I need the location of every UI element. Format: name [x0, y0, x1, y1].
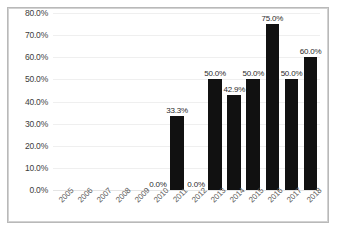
x-axis-slot: 2012 [187, 190, 206, 224]
bar[interactable]: 75.0% [266, 24, 280, 190]
bar-slot[interactable] [110, 13, 129, 190]
x-axis-slot: 2010 [148, 190, 167, 224]
x-axis-slot: 2013 [206, 190, 225, 224]
x-axis-slot: 2007 [91, 190, 110, 224]
bar-value-label: 60.0% [300, 47, 322, 56]
bar[interactable]: 50.0% [208, 79, 222, 190]
plot-area: 80.0%70.0%60.0%50.0%40.0%30.0%20.0%10.0%… [53, 13, 320, 190]
x-axis-tick-labels: 2005200620072008200920102011201220132014… [53, 190, 320, 224]
bar-value-label: 42.9% [223, 85, 245, 94]
y-axis-tick-label: 20.0% [25, 141, 48, 151]
x-axis-slot: 2011 [167, 190, 186, 224]
y-axis-tick-label: 80.0% [25, 8, 48, 18]
bar-value-label: 50.0% [281, 69, 303, 78]
bar-slot[interactable]: 50.0% [244, 13, 263, 190]
bar-slot[interactable] [129, 13, 148, 190]
x-axis-slot: 2017 [282, 190, 301, 224]
y-axis-tick-label: 60.0% [25, 52, 48, 62]
chart-frame: 80.0%70.0%60.0%50.0%40.0%30.0%20.0%10.0%… [7, 7, 329, 223]
x-axis-slot: 2009 [129, 190, 148, 224]
x-axis-slot: 2014 [225, 190, 244, 224]
bar-value-label: 33.3% [166, 106, 188, 115]
bar-slot[interactable]: 75.0% [263, 13, 282, 190]
bar-slot[interactable]: 42.9% [225, 13, 244, 190]
bar-slot[interactable]: 60.0% [301, 13, 320, 190]
bar-slot[interactable] [91, 13, 110, 190]
x-axis-slot: 2006 [72, 190, 91, 224]
bar-value-label: 50.0% [242, 69, 264, 78]
bar[interactable]: 50.0% [246, 79, 260, 190]
bar[interactable]: 33.3% [170, 116, 184, 190]
x-axis-slot: 2016 [263, 190, 282, 224]
bar-slot[interactable] [53, 13, 72, 190]
bar-slot[interactable]: 50.0% [282, 13, 301, 190]
bar-slot[interactable]: 0.0% [148, 13, 167, 190]
bar-slot[interactable]: 50.0% [206, 13, 225, 190]
bar[interactable]: 60.0% [304, 57, 318, 190]
y-axis-tick-label: 0.0% [29, 185, 48, 195]
y-axis-tick-label: 50.0% [25, 74, 48, 84]
x-axis-slot: 2008 [110, 190, 129, 224]
bar-slot[interactable] [72, 13, 91, 190]
y-axis-tick-label: 70.0% [25, 30, 48, 40]
bar-value-label: 50.0% [204, 69, 226, 78]
y-axis-tick-label: 30.0% [25, 119, 48, 129]
y-axis-tick-label: 10.0% [25, 163, 48, 173]
bar[interactable]: 50.0% [285, 79, 299, 190]
x-axis-slot: 2018 [301, 190, 320, 224]
bar-value-label: 75.0% [262, 14, 284, 23]
x-axis-slot: 2005 [53, 190, 72, 224]
bar[interactable]: 42.9% [227, 95, 241, 190]
bar-slot[interactable]: 0.0% [187, 13, 206, 190]
bar-series: 0.0%33.3%0.0%50.0%42.9%50.0%75.0%50.0%60… [53, 13, 320, 190]
y-axis-tick-label: 40.0% [25, 97, 48, 107]
bar-slot[interactable]: 33.3% [167, 13, 186, 190]
x-axis-slot: 2015 [244, 190, 263, 224]
